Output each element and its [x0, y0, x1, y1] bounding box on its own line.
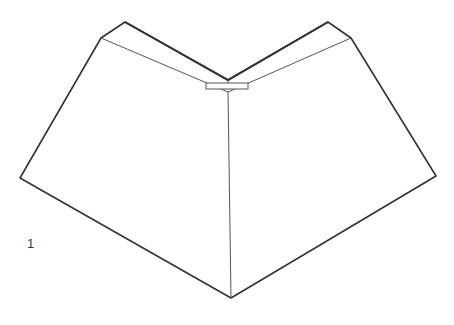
corner-trim-drawing: [0, 0, 454, 325]
outer-outline: [20, 22, 436, 298]
figure-label: 1: [27, 236, 34, 251]
joining-strip: [206, 83, 248, 89]
top-back-edge: [125, 22, 328, 80]
center-seam-line: [228, 92, 231, 298]
